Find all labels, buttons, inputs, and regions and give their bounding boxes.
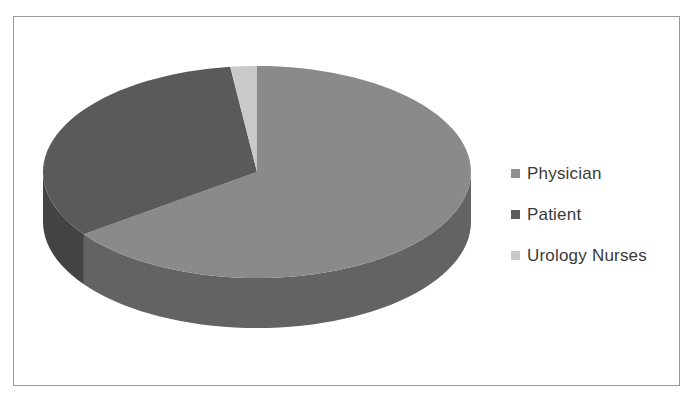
legend-label: Physician bbox=[527, 164, 602, 184]
legend-swatch-icon bbox=[511, 251, 520, 260]
legend-label: Urology Nurses bbox=[527, 246, 647, 266]
legend-item-physician: Physician bbox=[511, 153, 647, 194]
legend-swatch-icon bbox=[511, 210, 520, 219]
pie-top-faces bbox=[43, 66, 471, 278]
legend-item-patient: Patient bbox=[511, 194, 647, 235]
legend: Physician Patient Urology Nurses bbox=[511, 153, 647, 276]
legend-label: Patient bbox=[527, 205, 581, 225]
legend-swatch-icon bbox=[511, 169, 520, 178]
legend-item-urology-nurses: Urology Nurses bbox=[511, 235, 647, 276]
